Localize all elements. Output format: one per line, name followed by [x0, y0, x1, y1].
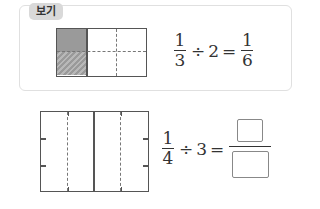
- tick-mark: [143, 165, 148, 167]
- fraction-one-third: 1 3: [174, 32, 186, 69]
- divider-dashed: [67, 112, 68, 191]
- equals-sign: =: [222, 41, 236, 61]
- equals-sign: =: [210, 139, 224, 159]
- shaded-third: [57, 29, 87, 52]
- tick-mark: [41, 165, 46, 167]
- divider-solid: [86, 29, 88, 76]
- example-equation: 1 3 ÷ 2 = 1 6: [172, 32, 255, 69]
- problem-fraction-diagram: [40, 111, 149, 192]
- divider-solid: [93, 112, 95, 191]
- divisor: 3: [196, 139, 207, 159]
- answer-denominator-box[interactable]: [232, 151, 269, 178]
- fraction-one-fourth: 1 4: [162, 130, 174, 167]
- divide-sign: ÷: [179, 139, 193, 159]
- fraction-result: 1 6: [241, 32, 253, 69]
- answer-fraction: [229, 119, 271, 178]
- example-fraction-diagram: [56, 28, 147, 77]
- divisor: 2: [208, 41, 219, 61]
- problem-equation: 1 4 ÷ 3 =: [160, 119, 273, 178]
- tick-mark: [143, 138, 148, 140]
- hatched-sixth: [57, 52, 87, 75]
- answer-numerator-box[interactable]: [237, 119, 263, 142]
- divider-dashed: [116, 29, 117, 76]
- tick-mark: [41, 138, 46, 140]
- divider-dashed: [120, 112, 121, 191]
- example-label: 보기: [29, 3, 63, 20]
- divider-dashed-horizontal: [57, 51, 146, 52]
- divide-sign: ÷: [191, 41, 205, 61]
